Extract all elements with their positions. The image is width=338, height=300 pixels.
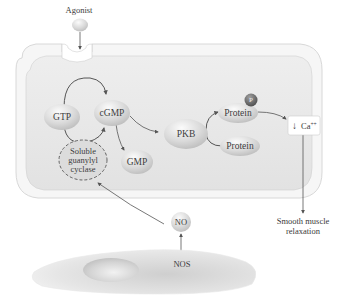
- gmp-label: GMP: [127, 157, 148, 167]
- endothelial-cell-body: [32, 250, 256, 294]
- cgmp-label: cGMP: [100, 108, 125, 118]
- nos-label: NOS: [173, 259, 190, 269]
- outcome-label-line2: relaxation: [286, 226, 321, 236]
- pkb-label: PKB: [177, 129, 195, 139]
- soluble-guanylyl-cyclase-node: Soluble guanylyl cyclase: [59, 140, 107, 180]
- gmp-node: GMP: [121, 150, 153, 174]
- outcome-label-line1: Smooth muscle: [277, 216, 330, 226]
- gtp-label: GTP: [53, 112, 71, 122]
- gtp-node: GTP: [44, 104, 80, 130]
- phosphate-label: P: [249, 96, 253, 104]
- agonist-molecule: [72, 19, 88, 32]
- pathway-diagram: Agonist GTP cGMP Soluble guanylyl cyclas…: [0, 0, 338, 300]
- calcium-decrease-box: ↓ Ca++: [288, 116, 320, 135]
- protein-phosphorylated-label: Protein: [224, 108, 252, 118]
- protein-unphosphorylated-node: Protein: [220, 136, 260, 156]
- soluble-gc-label-line3: cyclase: [70, 164, 95, 174]
- endothelial-cell: [32, 250, 256, 294]
- receptor: [62, 44, 92, 62]
- no-label: NO: [175, 217, 187, 227]
- endothelial-nucleus: [83, 258, 139, 282]
- calcium-down-arrow: ↓: [292, 120, 297, 131]
- calcium-charge: ++: [310, 121, 316, 127]
- agonist-label: Agonist: [66, 5, 94, 15]
- no-node: NO: [171, 212, 191, 232]
- cgmp-node: cGMP: [94, 100, 130, 126]
- protein-unphosphorylated-label: Protein: [226, 141, 254, 151]
- pkb-node: PKB: [164, 119, 208, 149]
